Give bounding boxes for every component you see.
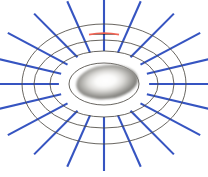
field-line-diagram xyxy=(0,0,208,177)
figure-root xyxy=(0,0,208,177)
highlighted-arc-segment xyxy=(89,33,119,35)
highlighted-arc-group xyxy=(89,33,119,35)
